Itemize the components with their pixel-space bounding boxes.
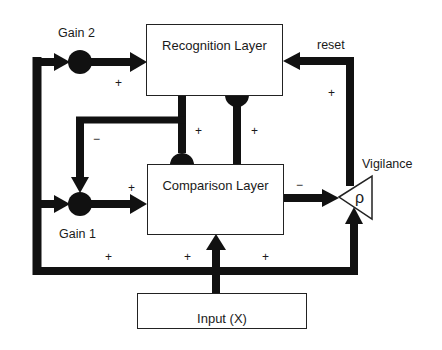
gain1-label: Gain 1 <box>59 227 96 241</box>
comparison-layer-box: Comparison Layer <box>147 164 284 235</box>
arrowhead-icon <box>283 52 300 70</box>
sign-input-gain1: + <box>105 251 112 263</box>
gain2-label: Gain 2 <box>58 26 95 40</box>
sign-comparison-vigilance: − <box>296 179 303 191</box>
gain2-node <box>68 50 92 74</box>
arrowhead-icon <box>322 189 339 207</box>
sign-gain2-recognition: + <box>115 77 122 89</box>
arrowhead-icon <box>54 195 70 213</box>
input-label: Input (X) <box>138 311 306 326</box>
semicircle-connector-icon <box>225 95 249 107</box>
arrowhead-icon <box>71 177 89 193</box>
input-box: Input (X) <box>137 293 307 329</box>
sign-comparison-recognition: + <box>251 125 258 137</box>
arrowhead-icon <box>130 194 147 214</box>
sign-gain1-comparison: + <box>128 182 135 194</box>
comparison-layer-label: Comparison Layer <box>148 178 283 193</box>
arrowhead-icon <box>54 53 70 71</box>
gain1-node <box>68 192 92 216</box>
sign-reset-line: + <box>328 87 335 99</box>
sign-recognition-gain1: − <box>93 133 100 145</box>
sign-input-comparison: + <box>184 251 191 263</box>
vigilance-label: Vigilance <box>362 157 413 171</box>
vigilance-symbol: ρ <box>355 189 364 207</box>
recognition-layer-label: Recognition Layer <box>147 38 282 53</box>
sign-input-vigilance: + <box>262 251 269 263</box>
reset-label: reset <box>317 38 345 52</box>
arrowhead-icon <box>206 234 226 250</box>
sign-recognition-comparison: + <box>195 125 202 137</box>
recognition-layer-box: Recognition Layer <box>146 24 283 96</box>
arrowhead-icon <box>130 52 147 72</box>
